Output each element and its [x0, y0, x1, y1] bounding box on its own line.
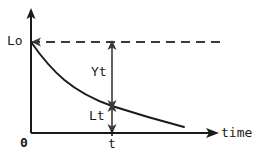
y-intercept-label: Lo [7, 34, 23, 47]
x-axis-label: time [221, 126, 252, 139]
decay-curve-path [31, 42, 184, 127]
lt-bracket-label: Lt [89, 109, 105, 122]
decay-curve-figure: Lo Yt Lt 0 t time [0, 0, 260, 160]
yt-bracket-label: Yt [91, 65, 107, 78]
x-tick-label-t: t [108, 137, 116, 150]
origin-label: 0 [20, 136, 28, 149]
